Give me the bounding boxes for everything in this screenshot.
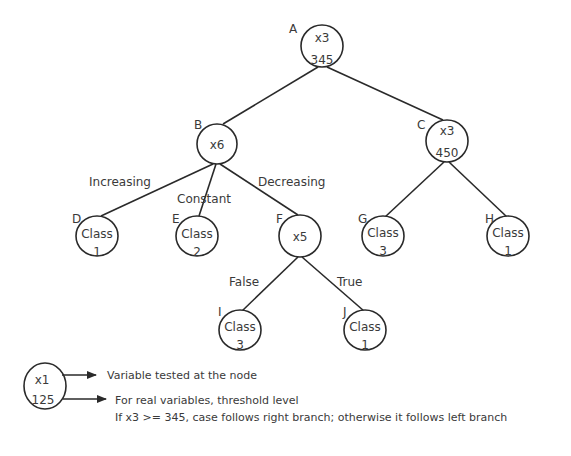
edge-label-constant: Constant bbox=[177, 192, 231, 206]
legend-node-threshold: 125 bbox=[32, 393, 55, 407]
node-f-variable: x5 bbox=[293, 230, 308, 244]
node-i-letter: I bbox=[218, 305, 222, 319]
tree-edges bbox=[101, 67, 507, 311]
node-i: I Class 3 bbox=[218, 305, 261, 352]
legend-variable-desc: Variable tested at the node bbox=[107, 369, 257, 382]
node-h-letter: H bbox=[485, 212, 494, 226]
node-g-letter: G bbox=[358, 212, 367, 226]
legend: x1 125 Variable tested at the node For r… bbox=[24, 363, 507, 424]
edge-b-d bbox=[101, 164, 213, 216]
node-e: E Class 2 bbox=[172, 212, 218, 259]
decision-tree-diagram: A x3 345 B x6 C x3 450 D Class 1 E Class… bbox=[0, 0, 571, 456]
legend-threshold-desc: For real variables, threshold level bbox=[115, 394, 299, 407]
node-j-class-label: Class bbox=[349, 320, 381, 334]
legend-rule-desc: If x3 >= 345, case follows right branch;… bbox=[115, 411, 507, 424]
node-d: D Class 1 bbox=[72, 212, 118, 259]
edge-label-true: True bbox=[336, 275, 363, 289]
node-j: J Class 1 bbox=[342, 305, 386, 352]
edge-label-false: False bbox=[229, 275, 259, 289]
node-g-class-value: 3 bbox=[379, 244, 387, 258]
node-e-class-value: 2 bbox=[193, 245, 201, 259]
node-h-class-label: Class bbox=[492, 226, 524, 240]
node-i-class-value: 3 bbox=[236, 338, 244, 352]
edge-c-g bbox=[385, 162, 444, 217]
node-c: C x3 450 bbox=[417, 118, 468, 162]
node-e-letter: E bbox=[172, 212, 180, 226]
edge-labels: Increasing Constant Decreasing False Tru… bbox=[89, 175, 363, 289]
node-g: G Class 3 bbox=[358, 212, 404, 258]
node-j-class-value: 1 bbox=[361, 338, 369, 352]
node-a-variable: x3 bbox=[315, 31, 330, 45]
node-d-letter: D bbox=[72, 212, 81, 226]
node-c-threshold: 450 bbox=[436, 146, 459, 160]
node-a: A x3 345 bbox=[289, 22, 343, 67]
edge-b-f bbox=[220, 164, 298, 215]
node-h-class-value: 1 bbox=[504, 244, 512, 258]
node-g-class-label: Class bbox=[367, 226, 399, 240]
edge-label-decreasing: Decreasing bbox=[258, 175, 325, 189]
node-d-class-value: 1 bbox=[93, 245, 101, 259]
edge-a-c bbox=[327, 67, 443, 120]
node-d-class-label: Class bbox=[81, 227, 113, 241]
node-a-letter: A bbox=[289, 22, 298, 36]
node-e-class-label: Class bbox=[181, 227, 213, 241]
edge-c-h bbox=[449, 162, 507, 217]
node-h: H Class 1 bbox=[485, 212, 529, 258]
node-i-class-label: Class bbox=[224, 320, 256, 334]
node-j-letter: J bbox=[342, 305, 347, 319]
node-f-letter: F bbox=[276, 212, 283, 226]
node-f: F x5 bbox=[276, 212, 321, 257]
node-b-letter: B bbox=[194, 118, 202, 132]
node-b-variable: x6 bbox=[210, 138, 225, 152]
edge-b-e bbox=[199, 164, 216, 216]
node-a-threshold: 345 bbox=[311, 53, 334, 67]
node-b: B x6 bbox=[194, 118, 237, 164]
edge-label-increasing: Increasing bbox=[89, 175, 151, 189]
edge-a-b bbox=[223, 67, 318, 124]
legend-node-variable: x1 bbox=[35, 373, 50, 387]
node-c-variable: x3 bbox=[440, 124, 455, 138]
node-c-letter: C bbox=[417, 118, 425, 132]
